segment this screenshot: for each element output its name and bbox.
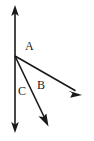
- vector-label-a: A: [25, 40, 34, 52]
- vector-label-c: C: [18, 85, 26, 97]
- vector-label-b: B: [37, 79, 45, 91]
- vector-diagram-canvas: [0, 0, 94, 141]
- vertical-axis-arrow: [11, 5, 19, 133]
- vector-diagram: A B C: [0, 0, 94, 141]
- vector-b-arrowhead: [69, 91, 82, 98]
